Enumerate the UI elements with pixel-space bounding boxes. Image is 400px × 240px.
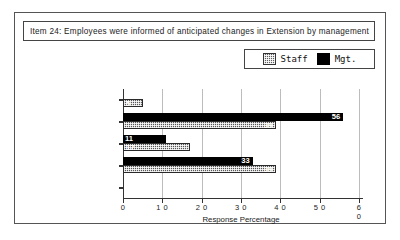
bar-staff: 39	[123, 121, 276, 129]
legend-swatch-mgt-icon	[317, 53, 330, 65]
bar-value-label: 11	[125, 135, 133, 143]
chart-figure: Item 24: Employees were informed of anti…	[14, 12, 386, 224]
bar-value-label: 5	[126, 100, 130, 108]
bar-group: strongly agree	[123, 177, 359, 199]
legend-entry-staff: Staff	[263, 53, 308, 65]
bar-value-label: 17	[126, 144, 134, 152]
bar-mgt: 33	[123, 157, 253, 165]
plot-area: 01 02 03 04 05 06 0 strongly disagree5di…	[123, 89, 359, 199]
x-tick-label: 4 0	[274, 203, 286, 212]
bar-group: neutral (no knowledge)1117	[123, 133, 359, 155]
chart-title-box: Item 24: Employees were informed of anti…	[23, 21, 375, 41]
bar-group: disagree5639	[123, 111, 359, 133]
x-tick-label: 0	[121, 203, 126, 212]
legend-label-staff: Staff	[281, 54, 308, 64]
bar-mgt: 11	[123, 135, 166, 143]
bar-staff: 5	[123, 99, 143, 107]
bar-value-label: 33	[241, 157, 249, 165]
bar-value-label: 56	[332, 113, 340, 121]
bar-value-label: 39	[264, 122, 272, 130]
bar-staff: 17	[123, 143, 190, 151]
gridline	[359, 89, 360, 199]
legend-label-mgt: Mgt.	[335, 54, 357, 64]
bar-value-label: 39	[264, 166, 272, 174]
x-tick-label: 2 0	[196, 203, 208, 212]
legend-swatch-staff-icon	[263, 53, 276, 65]
page-title: Item 24: Employees were informed of anti…	[30, 27, 369, 36]
bar-mgt: 56	[123, 113, 343, 121]
bar-group: agree3339	[123, 155, 359, 177]
y-tick	[119, 187, 123, 189]
x-tick-label: 5 0	[314, 203, 326, 212]
bar-group: strongly disagree5	[123, 89, 359, 111]
legend-entry-mgt: Mgt.	[317, 53, 357, 65]
bar-staff: 39	[123, 165, 276, 173]
x-tick-label: 3 0	[235, 203, 247, 212]
x-axis-label: Response Percentage	[123, 215, 359, 224]
chart-legend: Staff Mgt.	[244, 49, 375, 69]
x-tick-label: 1 0	[156, 203, 168, 212]
